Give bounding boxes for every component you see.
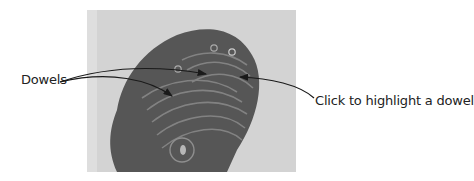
arrow-to-dowel-2 xyxy=(60,77,172,96)
arrow-to-highlighted-dowel xyxy=(240,77,314,98)
